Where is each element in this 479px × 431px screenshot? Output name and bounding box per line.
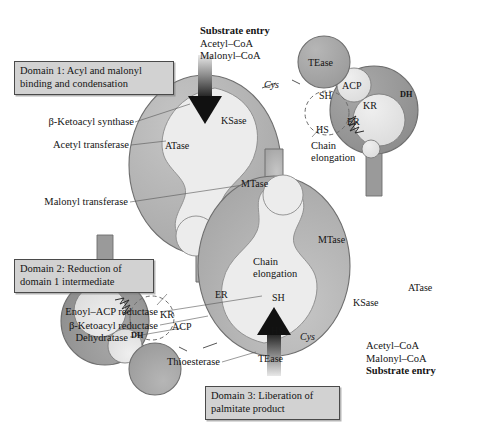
label-acetyl-transferase: Acetyl transferase: [0, 139, 129, 152]
chain-elongation-lower: Chain elongation: [253, 256, 297, 279]
chain-upper-line1: Chain: [311, 140, 355, 152]
domain1-box: Domain 1: Acyl and malonyl binding and c…: [14, 61, 174, 95]
chain-elongation-upper: Chain elongation: [311, 140, 355, 163]
substrate-entry-top: Substrate entry Acetyl–CoA Malonyl–CoA: [200, 25, 270, 63]
label-ketoacyl-synthase: β-Ketoacyl synthase: [0, 116, 134, 129]
label-acp-lower: ACP: [172, 321, 191, 332]
label-mtase-lower: MTase: [318, 234, 345, 245]
label-enoyl-acp-reductase: Enoyl–ACP reductase: [0, 306, 158, 319]
domain2-box: Domain 2: Reduction of domain 1 intermed…: [14, 259, 154, 293]
label-ksase-lower: KSase: [353, 297, 379, 308]
label-ksase-upper: KSase: [221, 115, 247, 126]
label-atase-upper: ATase: [165, 140, 189, 151]
domain2-line2: domain 1 intermediate: [20, 276, 148, 289]
substrate-top-line2: Malonyl–CoA: [200, 50, 270, 63]
label-sh-lower: SH: [272, 292, 285, 303]
domain2-line1: Domain 2: Reduction of: [20, 263, 148, 276]
label-malonyl-transferase: Malonyl transferase: [0, 196, 128, 209]
label-er-lower: ER: [215, 289, 228, 300]
domain3-line2: palmitate product: [211, 403, 334, 416]
label-tease-lower: TEase: [258, 353, 283, 364]
label-mtase-upper: MTase: [241, 178, 268, 189]
domain3-line1: Domain 3: Liberation of: [211, 390, 334, 403]
label-dh-upper: DH: [400, 89, 413, 100]
substrate-bottom-heading: Substrate entry: [366, 365, 436, 378]
substrate-top-line1: Acetyl–CoA: [200, 38, 270, 51]
label-cys-upper: Cys: [264, 79, 279, 90]
label-kr-upper: KR: [363, 100, 377, 111]
substrate-entry-bottom: Acetyl–CoA Malonyl–CoA Substrate entry: [366, 340, 436, 378]
substrate-bottom-line1: Acetyl–CoA: [366, 340, 436, 353]
label-er-upper: ER: [347, 116, 360, 127]
chain-lower-line2: elongation: [253, 268, 297, 280]
label-hs-lower: HS: [271, 325, 284, 336]
domain1-line2: binding and condensation: [20, 78, 168, 91]
leader-thioesterase: [222, 352, 256, 362]
label-dehydratase: Dehydratase: [0, 332, 128, 345]
domain3-box: Domain 3: Liberation of palmitate produc…: [205, 386, 340, 420]
label-tease-upper: TEase: [308, 57, 333, 68]
label-hs-upper: HS: [316, 124, 329, 135]
substrate-top-heading: Substrate entry: [200, 25, 270, 38]
acp-nub-upper: [362, 140, 380, 158]
label-cys-lower: Cys: [300, 331, 315, 342]
kr-chamber-upper: [353, 94, 405, 146]
chain-upper-line2: elongation: [311, 152, 355, 164]
substrate-bottom-line2: Malonyl–CoA: [366, 353, 436, 366]
label-thioesterase: Thioesterase: [100, 356, 220, 369]
label-sh-upper: SH: [319, 90, 332, 101]
label-kr-lower: KR: [160, 309, 174, 320]
label-dh-lower: DH: [131, 330, 144, 341]
figure-canvas: Domain 1: Acyl and malonyl binding and c…: [0, 0, 479, 431]
label-atase-lower: ATase: [408, 282, 432, 293]
label-acp-upper: ACP: [342, 80, 361, 91]
domain1-line1: Domain 1: Acyl and malonyl: [20, 65, 168, 78]
cys-tether2-upper: [292, 80, 300, 84]
chain-lower-line1: Chain: [253, 256, 297, 268]
